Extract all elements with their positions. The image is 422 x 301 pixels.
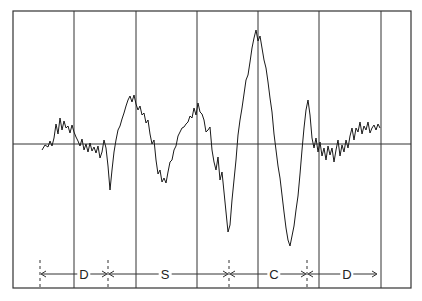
- segment-label-s: S: [159, 268, 172, 281]
- waveform-chart: [0, 0, 422, 301]
- segment-label-d2: D: [340, 268, 353, 281]
- waveform-trace: [42, 30, 380, 246]
- segment-label-c: C: [267, 268, 280, 281]
- segment-label-d1: D: [77, 268, 90, 281]
- vertical-gridlines: [74, 11, 381, 288]
